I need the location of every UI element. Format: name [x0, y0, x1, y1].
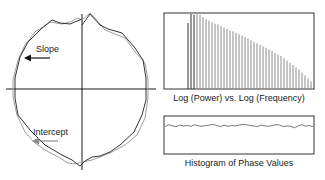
slope-arrowhead-icon: [24, 55, 31, 62]
chart-title: Log (Power) vs. Log (Frequency): [173, 93, 305, 103]
phase-line: [165, 124, 313, 127]
bars-group: [188, 14, 311, 89]
slope-label: Slope: [36, 44, 59, 54]
polar-plot: Slope Intercept: [6, 13, 156, 170]
power-spectrum-chart: Log (Power) vs. Log (Frequency): [164, 13, 314, 103]
phase-histogram-chart: Histogram of Phase Values: [164, 116, 314, 168]
histogram-frame: [164, 116, 314, 154]
histogram-title: Histogram of Phase Values: [185, 158, 294, 168]
figure: Slope Intercept Log (Power) vs. Log (Fre…: [0, 0, 325, 180]
intercept-label: Intercept: [33, 127, 69, 137]
